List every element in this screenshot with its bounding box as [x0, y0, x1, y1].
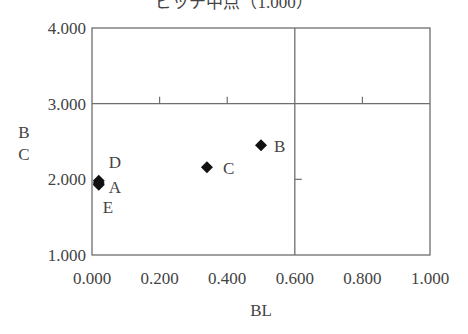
data-point-label: B [274, 137, 285, 156]
data-point-marker [255, 139, 267, 151]
y-tick-label: 2.000 [48, 170, 86, 189]
scatter-chart: 1.0002.0003.0004.0000.0000.2000.4000.600… [0, 0, 468, 334]
data-point-marker [201, 161, 213, 173]
data-point-label: A [109, 178, 122, 197]
x-tick-label: 0.200 [140, 269, 178, 288]
y-tick-label: 1.000 [48, 246, 86, 265]
data-point-label: D [109, 153, 121, 172]
x-tick-label: 1.000 [411, 269, 449, 288]
data-point-label: E [103, 198, 113, 217]
x-tick-label: 0.400 [208, 269, 246, 288]
y-axis-label: C [18, 145, 29, 164]
y-axis-label: B [18, 123, 29, 142]
x-axis-label: BL [250, 301, 272, 320]
y-tick-label: 3.000 [48, 95, 86, 114]
y-tick-label: 4.000 [48, 19, 86, 38]
x-tick-label: 0.600 [276, 269, 314, 288]
data-point-label: C [223, 159, 234, 178]
x-tick-label: 0.800 [343, 269, 381, 288]
x-tick-label: 0.000 [73, 269, 111, 288]
